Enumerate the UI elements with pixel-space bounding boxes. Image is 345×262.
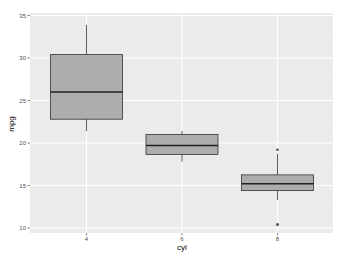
y-tick-label: 35 <box>19 13 26 19</box>
x-axis-title: cyl <box>177 243 187 252</box>
y-tick-label: 30 <box>19 55 26 61</box>
x-axis: 468 <box>85 233 280 242</box>
y-tick-label: 25 <box>19 98 26 104</box>
outlier-point <box>276 223 279 226</box>
y-tick-label: 15 <box>19 183 26 189</box>
x-tick-label: 8 <box>276 236 280 242</box>
iqr-box <box>51 55 123 120</box>
x-tick-label: 4 <box>85 236 89 242</box>
y-axis-title: mpg <box>7 116 16 132</box>
y-tick-label: 20 <box>19 140 26 146</box>
y-axis: 101520253035 <box>19 13 30 232</box>
boxplot-chart: 101520253035 468 cyl mpg <box>0 0 345 262</box>
x-tick-label: 6 <box>180 236 184 242</box>
iqr-box <box>242 175 314 191</box>
y-tick-label: 10 <box>19 225 26 231</box>
outlier-point <box>276 149 279 152</box>
iqr-box <box>146 135 218 155</box>
